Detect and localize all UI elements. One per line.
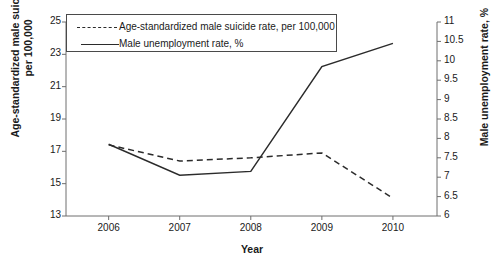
- y-tick-label-left: 25: [37, 15, 61, 26]
- y-tick-label-left: 19: [37, 112, 61, 123]
- chart-figure: 1315171921232566.577.588.599.51010.51120…: [0, 0, 504, 265]
- x-tick-label: 2006: [86, 222, 132, 233]
- series-line-unemployment-rate: [109, 43, 393, 175]
- legend-item-suicide: Age-standardized male suicide rate, per …: [73, 18, 336, 35]
- y-tick-label-right: 10.5: [444, 34, 468, 45]
- legend-item-unemployment: Male unemployment rate, %: [73, 35, 336, 52]
- y-tick-label-left: 13: [37, 209, 61, 220]
- chart-legend: Age-standardized male suicide rate, per …: [66, 14, 337, 52]
- y-axis-right-title: Male unemployment rate, %: [477, 2, 491, 152]
- x-tick-label: 2009: [299, 222, 345, 233]
- x-tick-label: 2008: [228, 222, 274, 233]
- legend-label-suicide: Age-standardized male suicide rate, per …: [119, 21, 335, 32]
- y-tick-label-left: 15: [37, 177, 61, 188]
- y-tick-label-right: 8: [444, 131, 468, 142]
- y-axis-left-title-line1: Age-standardized male suicide rate,: [9, 0, 21, 138]
- y-tick-label-right: 7: [444, 170, 468, 181]
- series-lines: [109, 43, 393, 198]
- y-tick-label-right: 9.5: [444, 73, 468, 84]
- legend-key-suicide-icon: [73, 22, 119, 32]
- y-tick-label-left: 21: [37, 80, 61, 91]
- y-tick-label-right: 11: [444, 15, 468, 26]
- y-axis-left-title-line2: per 100,000: [22, 19, 34, 76]
- legend-key-unemployment-icon: [73, 39, 119, 49]
- y-axis-left-title: Age-standardized male suicide rate, per …: [5, 0, 39, 148]
- y-tick-label-left: 23: [37, 47, 61, 58]
- x-tick-label: 2010: [370, 222, 416, 233]
- legend-label-unemployment: Male unemployment rate, %: [119, 38, 244, 49]
- y-tick-label-right: 6: [444, 209, 468, 220]
- y-tick-label-right: 6.5: [444, 190, 468, 201]
- x-axis-title: Year: [0, 243, 504, 255]
- y-tick-label-left: 17: [37, 144, 61, 155]
- y-tick-label-right: 8.5: [444, 112, 468, 123]
- x-tick-label: 2007: [157, 222, 203, 233]
- y-tick-label-right: 10: [444, 54, 468, 65]
- y-tick-label-right: 9: [444, 93, 468, 104]
- y-tick-label-right: 7.5: [444, 151, 468, 162]
